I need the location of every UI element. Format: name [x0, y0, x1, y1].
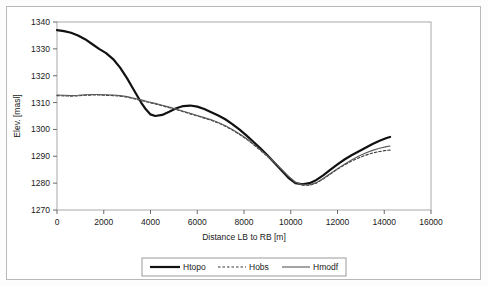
- y-tick-label: 1330: [31, 44, 50, 54]
- chart-figure: 12701280129013001310132013301340 0200040…: [0, 0, 488, 286]
- y-axis-title: Elev. [masl]: [12, 94, 22, 137]
- legend-label-hmodf: Hmodf: [313, 262, 339, 272]
- line-chart: 12701280129013001310132013301340 0200040…: [0, 0, 488, 286]
- y-tick-label: 1340: [31, 17, 50, 27]
- x-tick-label: 0: [55, 217, 60, 227]
- x-tick-label: 6000: [188, 217, 207, 227]
- x-axis-ticks: 0200040006000800010000120001400016000: [55, 210, 443, 227]
- y-tick-label: 1280: [31, 178, 50, 188]
- x-tick-label: 4000: [141, 217, 160, 227]
- y-tick-label: 1300: [31, 124, 50, 134]
- x-tick-label: 8000: [235, 217, 254, 227]
- x-tick-label: 2000: [94, 217, 113, 227]
- y-tick-label: 1310: [31, 98, 50, 108]
- x-tick-label: 12000: [326, 217, 350, 227]
- x-tick-label: 14000: [372, 217, 396, 227]
- x-tick-label: 10000: [279, 217, 303, 227]
- y-tick-label: 1270: [31, 205, 50, 215]
- x-axis-title: Distance LB to RB [m]: [202, 232, 286, 242]
- chart-legend: HtopoHobsHmodf: [142, 258, 346, 276]
- x-tick-label: 16000: [419, 217, 443, 227]
- y-axis-ticks: 12701280129013001310132013301340: [31, 17, 57, 215]
- plot-wrapper: 12701280129013001310132013301340 0200040…: [0, 0, 488, 286]
- legend-label-htopo: Htopo: [183, 262, 206, 272]
- y-tick-label: 1320: [31, 71, 50, 81]
- y-tick-label: 1290: [31, 151, 50, 161]
- legend-label-hobs: Hobs: [249, 262, 269, 272]
- plot-background: [57, 22, 431, 210]
